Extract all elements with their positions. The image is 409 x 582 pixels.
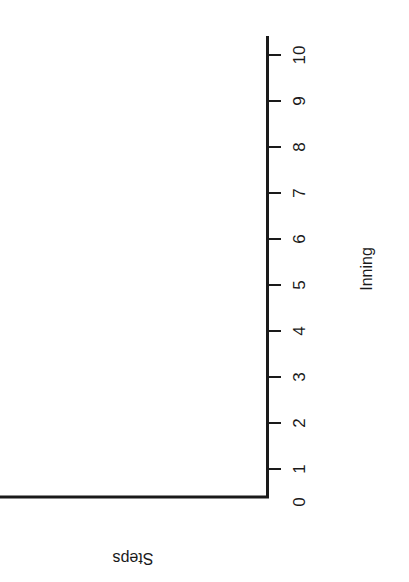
chart: 012345678910 Inning Steps <box>0 0 409 582</box>
x-axis-tick-label: 8 <box>290 142 310 151</box>
x-axis-title: Inning <box>358 247 376 291</box>
x-axis-ticks <box>267 55 281 469</box>
x-axis-tick-label: 9 <box>290 96 310 105</box>
x-axis-tick-label: 3 <box>290 372 310 381</box>
x-axis-tick-label: 2 <box>290 418 310 427</box>
x-axis-tick-label: 10 <box>290 46 310 65</box>
x-axis-tick-label: 6 <box>290 234 310 243</box>
x-axis-tick-label: 5 <box>290 280 310 289</box>
x-axis-tick-label: 1 <box>290 464 310 473</box>
x-axis-tick-label: 0 <box>290 497 310 506</box>
chart-axes <box>0 0 409 582</box>
x-axis-tick-label: 4 <box>290 326 310 335</box>
x-axis-tick-label: 7 <box>290 188 310 197</box>
y-axis-title: Steps <box>113 549 154 567</box>
